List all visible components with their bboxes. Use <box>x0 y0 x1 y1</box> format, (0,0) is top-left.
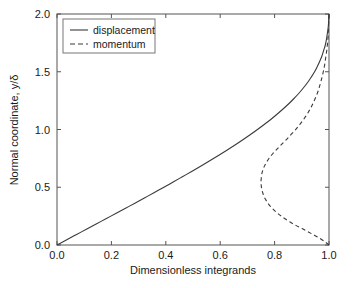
svg-text:0.0: 0.0 <box>49 249 64 261</box>
y-axis-title: Normal coordinate, y/δ <box>8 75 20 186</box>
legend-label-displacement: displacement <box>93 24 155 36</box>
svg-text:1.0: 1.0 <box>35 124 50 136</box>
chart-canvas: 0.00.20.40.60.81.0 0.00.51.01.52.0 Dimen… <box>0 0 360 288</box>
svg-text:0.8: 0.8 <box>267 249 282 261</box>
legend: displacement momentum <box>63 19 155 53</box>
svg-text:1.0: 1.0 <box>321 249 336 261</box>
svg-text:0.6: 0.6 <box>213 249 228 261</box>
figure-container: 0.00.20.40.60.81.0 0.00.51.01.52.0 Dimen… <box>0 0 360 288</box>
svg-text:0.4: 0.4 <box>158 249 173 261</box>
svg-text:0.0: 0.0 <box>35 239 50 251</box>
legend-label-momentum: momentum <box>93 38 146 50</box>
svg-text:0.2: 0.2 <box>104 249 119 261</box>
svg-text:0.5: 0.5 <box>35 181 50 193</box>
svg-text:2.0: 2.0 <box>35 8 50 20</box>
x-axis-title: Dimensionless integrands <box>130 264 256 276</box>
svg-text:1.5: 1.5 <box>35 66 50 78</box>
